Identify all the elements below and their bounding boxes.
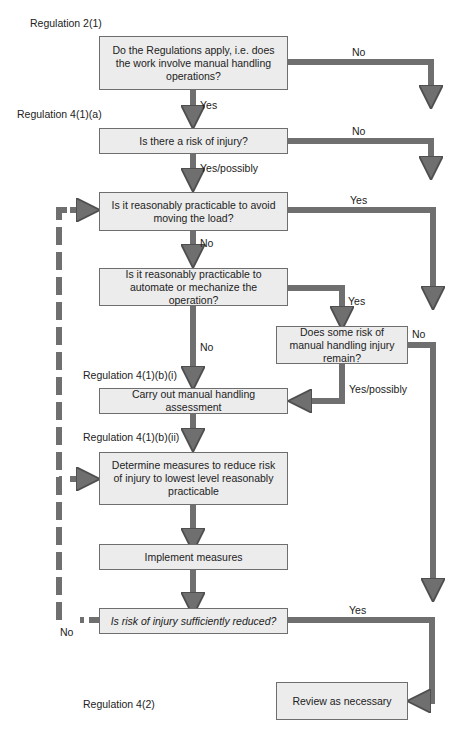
box-regulations-apply: Do the Regulations apply, i.e. does the … xyxy=(99,36,288,90)
edge-label-avoid-no: No xyxy=(200,237,213,249)
regulation-4-2-label: Regulation 4(2) xyxy=(83,698,155,710)
edge-label-automate-no: No xyxy=(200,341,213,353)
edge-label-reduced-yes: Yes xyxy=(349,604,366,616)
edge-label-risk-no: No xyxy=(352,125,365,137)
arrow-remain-yes xyxy=(300,364,342,401)
edge-label-remain-yes: Yes/possibly xyxy=(349,383,407,395)
box-manual-handling-assessment: Carry out manual handling assessment xyxy=(99,388,288,414)
edge-label-risk-yes: Yes/possibly xyxy=(200,162,258,174)
box-automate-mechanize: Is it reasonably practicable to automate… xyxy=(99,268,288,306)
edge-label-automate-yes: Yes xyxy=(348,295,365,307)
regulation-4-1-a-label: Regulation 4(1)(a) xyxy=(17,108,102,120)
arrow-remain-no xyxy=(408,345,433,590)
box-risk-sufficiently-reduced: Is risk of injury sufficiently reduced? xyxy=(99,608,288,634)
edge-label-apply-yes: Yes xyxy=(200,99,217,111)
regulation-4-1-b-i-label: Regulation 4(1)(b)(i) xyxy=(83,369,177,381)
box-avoid-moving-load: Is it reasonably practicable to avoid mo… xyxy=(99,192,288,231)
arrow-avoid-yes xyxy=(288,210,433,298)
edge-label-remain-no: No xyxy=(412,328,425,340)
box-determine-measures: Determine measures to reduce risk of inj… xyxy=(99,452,288,505)
edge-label-reduced-no: No xyxy=(60,626,73,638)
arrow-apply-no xyxy=(288,62,431,97)
box-review-as-necessary: Review as necessary xyxy=(276,682,408,720)
edge-label-apply-no: No xyxy=(352,46,365,58)
arrow-automate-yes xyxy=(288,288,342,318)
box-risk-remain: Does some risk of manual handling injury… xyxy=(276,326,408,364)
box-implement-measures: Implement measures xyxy=(99,544,288,570)
box-risk-of-injury: Is there a risk of injury? xyxy=(99,128,288,154)
regulation-2-1-label: Regulation 2(1) xyxy=(30,17,102,29)
regulation-4-1-b-ii-label: Regulation 4(1)(b)(ii) xyxy=(83,431,179,443)
edge-label-avoid-yes: Yes xyxy=(350,194,367,206)
arrow-risk-no xyxy=(288,141,431,168)
loop-dashed-line xyxy=(59,210,68,620)
